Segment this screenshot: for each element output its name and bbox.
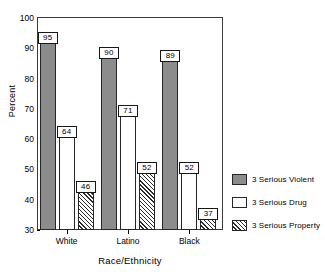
bar-value-label: 64 <box>57 126 77 138</box>
y-axis-tick-label: 40 <box>8 196 34 204</box>
legend-item-label: 3 Serious Property <box>252 221 320 230</box>
bar-value-label: 90 <box>99 47 119 59</box>
y-axis-tick-labels: 30405060708090100 <box>8 0 34 272</box>
y-axis-tick-label: 70 <box>8 105 34 113</box>
bar-value-label: 71 <box>118 105 138 117</box>
bar-value-label: 95 <box>38 32 58 44</box>
bar-latino-series-2 <box>120 106 136 230</box>
y-axis-tick-mark <box>37 230 40 231</box>
bar-white-series-2 <box>59 127 75 230</box>
x-axis-tick-mark <box>67 230 68 234</box>
y-axis-tick-label: 80 <box>8 75 34 83</box>
legend-swatch-icon <box>232 220 247 231</box>
bar-chart: Percent 30405060708090100 95644690715289… <box>0 0 325 272</box>
bar-value-label: 89 <box>160 50 180 62</box>
x-axis-title: Race/Ethnicity <box>37 255 223 266</box>
bar-value-label: 37 <box>198 208 218 220</box>
y-axis-tick-label: 100 <box>8 14 34 22</box>
x-axis-tick-label-black: Black <box>179 236 200 246</box>
y-axis-tick-label: 60 <box>8 135 34 143</box>
x-axis-tick-mark <box>128 230 129 234</box>
bar-white-series-1 <box>40 33 56 230</box>
legend-item[interactable]: 3 Serious Drug <box>232 195 324 209</box>
bar-value-label: 52 <box>137 162 157 174</box>
legend-item[interactable]: 3 Serious Property <box>232 218 324 232</box>
bar-value-label: 46 <box>76 181 96 193</box>
y-axis-tick-label: 90 <box>8 44 34 52</box>
bars-layer: 956446907152895237 <box>38 18 222 230</box>
legend-swatch-icon <box>232 197 247 208</box>
chart-legend: 3 Serious Violent3 Serious Drug3 Serious… <box>232 172 324 241</box>
y-axis-tick-label: 50 <box>8 165 34 173</box>
legend-item[interactable]: 3 Serious Violent <box>232 172 324 186</box>
x-axis-tick-label-white: White <box>56 236 78 246</box>
legend-item-label: 3 Serious Violent <box>252 175 314 184</box>
bar-black-series-1 <box>162 51 178 230</box>
bar-latino-series-1 <box>101 48 117 230</box>
x-axis-tick-mark <box>189 230 190 234</box>
legend-swatch-icon <box>232 174 247 185</box>
legend-item-label: 3 Serious Drug <box>252 198 307 207</box>
bar-value-label: 52 <box>179 162 199 174</box>
x-axis-tick-label-latino: Latino <box>116 236 139 246</box>
y-axis-tick-label: 30 <box>8 226 34 234</box>
